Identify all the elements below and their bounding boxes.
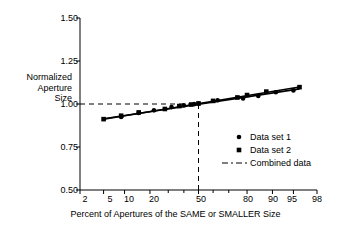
data-point-circle: [215, 98, 220, 103]
data-point-square: [101, 117, 106, 122]
y-axis-ticks: [76, 18, 80, 190]
data-point-square: [177, 104, 182, 109]
legend-marker-circle: [237, 135, 242, 140]
plot-canvas: [0, 0, 351, 236]
data-point-square: [211, 99, 216, 104]
data-point-square: [136, 110, 141, 115]
data-point-square: [297, 85, 302, 90]
data-point-circle: [256, 94, 261, 99]
data-point-square: [189, 102, 194, 107]
data-point-square: [196, 101, 201, 106]
chart-figure: Normalized Aperture Size 1.50 1.25 1.00 …: [0, 0, 351, 236]
data-point-circle: [241, 96, 246, 101]
data-point-square: [245, 93, 250, 98]
x-axis-ticks: [80, 190, 317, 194]
data-point-square: [264, 89, 269, 94]
data-point-circle: [169, 105, 174, 110]
fit-lines: [104, 87, 300, 119]
data-point-circle: [274, 90, 279, 95]
data-point-square: [235, 95, 240, 100]
legend-marker-square: [237, 148, 242, 153]
legend-markers: [222, 135, 249, 163]
reference-lines: [80, 104, 199, 190]
data-point-square: [163, 107, 168, 112]
data-point-circle: [152, 108, 157, 113]
data-point-circle: [291, 88, 296, 93]
data-point-square: [119, 113, 124, 118]
data-point-circle: [182, 103, 187, 108]
Data set 2 fit: [104, 87, 300, 119]
